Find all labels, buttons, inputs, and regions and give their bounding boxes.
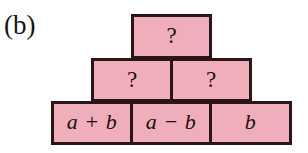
pyramid-block-middle-2[interactable]: ? — [170, 58, 252, 102]
figure-root: (b) ? ? ? a + b a − b b — [0, 0, 308, 153]
block-text: a + b — [67, 111, 117, 133]
block-text: ? — [166, 24, 176, 47]
pyramid-row-bottom: a + b a − b b — [51, 101, 295, 145]
pyramid-block-bottom-3[interactable]: b — [209, 101, 292, 145]
pyramid-row-top: ? — [131, 14, 212, 59]
pyramid-block-middle-1[interactable]: ? — [91, 58, 173, 102]
block-text: a − b — [146, 111, 196, 133]
block-text: b — [245, 111, 257, 133]
pyramid-row-middle: ? ? — [91, 58, 253, 102]
block-text: ? — [206, 68, 216, 91]
block-text: ? — [127, 68, 137, 91]
pyramid-block-bottom-1[interactable]: a + b — [51, 101, 133, 145]
pyramid-block-bottom-2[interactable]: a − b — [130, 101, 212, 145]
block-pyramid: ? ? ? a + b a − b b — [0, 0, 308, 153]
pyramid-block-top-1[interactable]: ? — [131, 14, 212, 59]
